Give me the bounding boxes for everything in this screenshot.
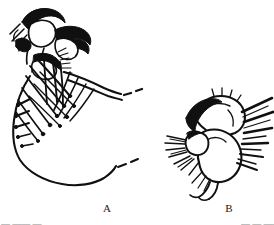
illustration-plate: A B — —— — — — —— — [0, 0, 274, 225]
figure-label-a: A — [100, 203, 114, 214]
lateral-dark-patch — [16, 38, 31, 52]
caption-fragment-right: — — —— — [241, 219, 274, 225]
maxilla-pale — [55, 38, 78, 59]
head-pale-lobe — [29, 20, 56, 47]
figure-label-b: B — [222, 203, 236, 214]
line-art-canvas — [0, 0, 274, 225]
caption-fragment-left: — —— — — [1, 219, 42, 225]
